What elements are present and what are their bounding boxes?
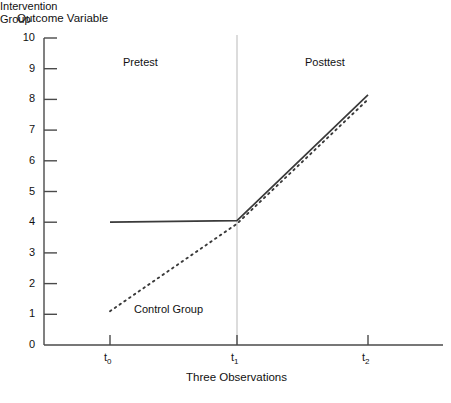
plot-area bbox=[0, 0, 451, 403]
chart-figure: Outcome Variable Three Observations Pret… bbox=[0, 0, 451, 403]
series-line-intervention-group bbox=[110, 95, 368, 222]
